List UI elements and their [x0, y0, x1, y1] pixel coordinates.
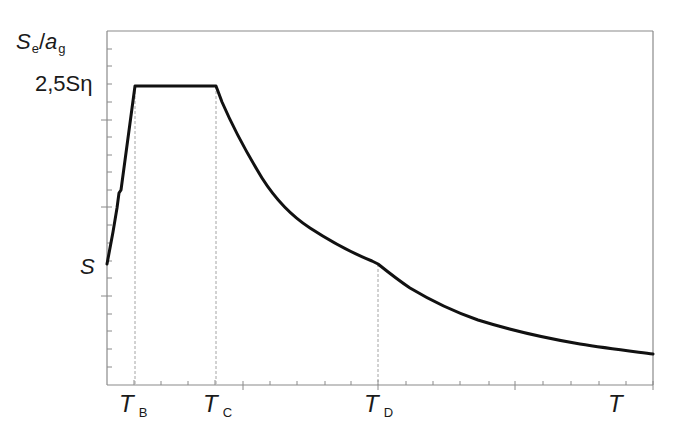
y-tick-label-s: S	[80, 254, 95, 280]
x-axis-title-t: T	[608, 390, 623, 418]
reference-lines	[135, 86, 378, 385]
response-spectrum-chart	[0, 0, 691, 436]
plot-frame	[107, 31, 653, 385]
x-tick-label-tb: TB	[119, 390, 147, 418]
y-title-sub-e: e	[32, 41, 39, 56]
y-tick-label-plateau: 2,5Sη	[35, 71, 93, 97]
y-title-sub-g: g	[58, 41, 65, 56]
spectrum-curve	[107, 86, 653, 354]
y-title-a: a	[45, 29, 57, 54]
y-title-s: S	[16, 29, 31, 54]
x-tick-label-tc: TC	[203, 390, 232, 418]
y-axis-title: Se/ag	[16, 29, 66, 55]
x-tick-label-td: TD	[364, 390, 393, 418]
